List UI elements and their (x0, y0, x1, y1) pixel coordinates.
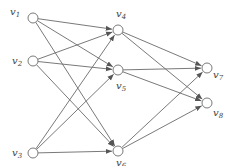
node-v2 (28, 56, 38, 66)
node-label-v6: v6 (116, 157, 127, 166)
node-label-v1: v1 (10, 6, 20, 19)
edge-v5-v7 (123, 68, 201, 70)
edge-v6-v7 (122, 72, 203, 147)
edge-v2-v4 (38, 32, 113, 59)
node-label-v2: v2 (12, 55, 23, 68)
edge-v2-v6 (36, 65, 113, 147)
edge-v6-v8 (122, 106, 201, 149)
node-v8 (202, 98, 212, 108)
node-label-v5: v5 (116, 80, 127, 93)
node-v3 (28, 148, 38, 158)
edge-v3-v5 (37, 74, 114, 149)
edge-v1-v6 (36, 22, 115, 146)
node-v5 (113, 65, 123, 75)
node-v1 (28, 13, 38, 23)
node-v6 (113, 146, 123, 156)
node-label-v3: v3 (12, 147, 23, 160)
edge-v3-v4 (36, 35, 115, 149)
node-v7 (202, 63, 212, 73)
edge-v4-v7 (123, 32, 202, 66)
edge-v5-v8 (123, 72, 202, 101)
edge-v2-v5 (38, 62, 112, 70)
edge-v4-v8 (122, 33, 202, 99)
edge-v3-v6 (38, 151, 112, 153)
node-label-v4: v4 (116, 8, 126, 21)
node-v4 (113, 25, 123, 35)
directed-graph: v1v2v3v4v5v6v7v8 (0, 0, 232, 166)
node-label-v8: v8 (213, 107, 224, 120)
node-label-v7: v7 (213, 69, 224, 82)
